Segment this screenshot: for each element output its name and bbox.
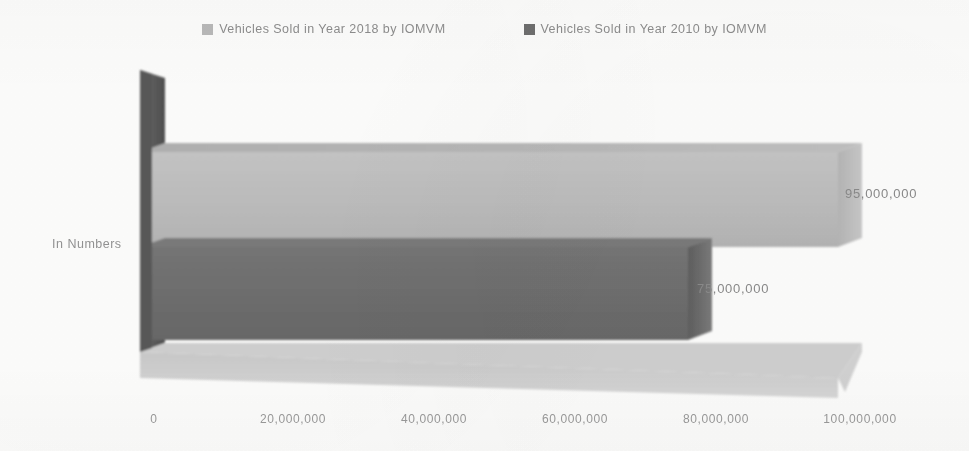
- chart-screenshot: Vehicles Sold in Year 2018 by IOMVM Vehi…: [0, 0, 969, 451]
- category-axis-title: In Numbers: [52, 237, 122, 251]
- bar-2018-top-face: [140, 143, 862, 152]
- bar-2010-top-face: [140, 238, 712, 247]
- legend-swatch-icon-2010: [524, 24, 535, 35]
- legend-item-2010[interactable]: Vehicles Sold in Year 2010 by IOMVM: [524, 22, 767, 36]
- bar-2018-front-face: [140, 152, 838, 247]
- x-tick-60m: 60,000,000: [542, 412, 608, 426]
- value-axis-tick-labels: 0 20,000,000 40,000,000 60,000,000 80,00…: [0, 412, 969, 434]
- x-tick-20m: 20,000,000: [260, 412, 326, 426]
- chart-3d-geometry: [0, 0, 969, 451]
- legend-item-2018[interactable]: Vehicles Sold in Year 2018 by IOMVM: [202, 22, 445, 36]
- chart-plot-area: [0, 0, 969, 451]
- data-label-2010: 75,000,000: [697, 281, 769, 296]
- x-tick-0: 0: [150, 412, 157, 426]
- chart-legend: Vehicles Sold in Year 2018 by IOMVM Vehi…: [0, 22, 969, 36]
- x-tick-40m: 40,000,000: [401, 412, 467, 426]
- legend-label-2010: Vehicles Sold in Year 2010 by IOMVM: [541, 22, 767, 36]
- legend-swatch-icon-2018: [202, 24, 213, 35]
- data-label-2018: 95,000,000: [845, 186, 917, 201]
- bar-2010-front-face: [140, 247, 688, 340]
- plot-left-wall-front: [140, 70, 152, 352]
- legend-label-2018: Vehicles Sold in Year 2018 by IOMVM: [219, 22, 445, 36]
- x-tick-100m: 100,000,000: [823, 412, 896, 426]
- x-tick-80m: 80,000,000: [683, 412, 749, 426]
